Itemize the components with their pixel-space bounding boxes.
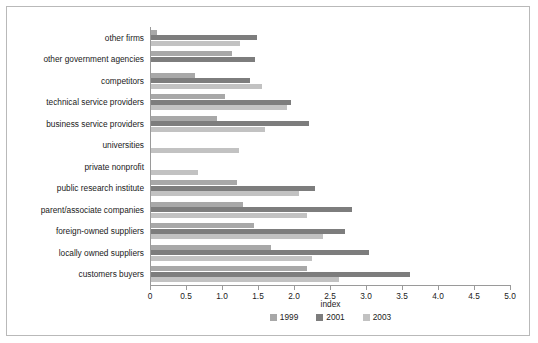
bar-group <box>150 178 510 200</box>
legend-swatch-icon <box>316 314 323 321</box>
bar-2003 <box>150 41 240 46</box>
x-tick-mark <box>402 286 403 290</box>
category-label: business service providers <box>46 119 144 129</box>
plot-area <box>150 27 510 285</box>
bar-group <box>150 156 510 178</box>
legend-swatch-icon <box>363 314 370 321</box>
x-tick-mark <box>258 286 259 290</box>
legend-label: 2001 <box>326 312 344 322</box>
bar-1999 <box>150 73 195 78</box>
x-tick-mark <box>222 286 223 290</box>
category-label: other government agencies <box>43 54 144 64</box>
category-label: private nonprofit <box>85 162 145 172</box>
category-label: universities <box>102 140 144 150</box>
bar-1999 <box>150 51 232 56</box>
bar-group <box>150 92 510 114</box>
bar-2001 <box>150 35 257 40</box>
bar-2003 <box>150 277 339 282</box>
bar-1999 <box>150 94 225 99</box>
bar-2001 <box>150 57 255 62</box>
bar-2001 <box>150 78 250 83</box>
bar-group <box>150 264 510 286</box>
bar-1999 <box>150 30 157 35</box>
bar-2003 <box>150 213 307 218</box>
legend-item[interactable]: 1999 <box>270 312 298 322</box>
x-tick-mark <box>474 286 475 290</box>
legend-label: 1999 <box>280 312 298 322</box>
bar-2001 <box>150 250 369 255</box>
chart-frame: other firmsother government agenciescomp… <box>6 6 530 336</box>
bar-2001 <box>150 272 410 277</box>
bar-1999 <box>150 116 217 121</box>
x-tick-mark <box>294 286 295 290</box>
bar-2003 <box>150 170 198 175</box>
bar-2001 <box>150 229 345 234</box>
bar-2003 <box>150 256 312 261</box>
x-tick-mark <box>510 286 511 290</box>
bar-group <box>150 199 510 221</box>
bar-group <box>150 242 510 264</box>
y-axis-line <box>150 27 151 285</box>
bar-group <box>150 70 510 92</box>
category-label: parent/associate companies <box>41 205 144 215</box>
bar-2003 <box>150 234 323 239</box>
bar-2003 <box>150 84 262 89</box>
bar-group <box>150 27 510 49</box>
category-label: other firms <box>105 33 144 43</box>
legend-item[interactable]: 2001 <box>316 312 344 322</box>
bar-2001 <box>150 207 352 212</box>
bar-group <box>150 135 510 157</box>
bar-2003 <box>150 127 265 132</box>
bar-group <box>150 113 510 135</box>
bar-1999 <box>150 202 243 207</box>
x-tick-mark <box>186 286 187 290</box>
category-label: technical service providers <box>46 97 144 107</box>
bar-2001 <box>150 100 291 105</box>
legend-item[interactable]: 2003 <box>363 312 391 322</box>
bar-1999 <box>150 245 271 250</box>
bar-2001 <box>150 186 315 191</box>
bar-1999 <box>150 223 254 228</box>
legend-swatch-icon <box>270 314 277 321</box>
bar-1999 <box>150 266 307 271</box>
bar-2001 <box>150 121 309 126</box>
bar-2003 <box>150 191 299 196</box>
category-label: competitors <box>101 76 144 86</box>
bar-2003 <box>150 105 287 110</box>
bar-2003 <box>150 148 239 153</box>
x-tick-mark <box>150 286 151 290</box>
category-label: public research institute <box>57 183 144 193</box>
chart-legend: 199920012003 <box>150 312 511 322</box>
category-label: locally owned suppliers <box>59 248 144 258</box>
category-label: customers buyers <box>79 269 144 279</box>
x-tick-mark <box>330 286 331 290</box>
legend-label: 2003 <box>373 312 391 322</box>
bar-group <box>150 221 510 243</box>
x-tick-mark <box>438 286 439 290</box>
bar-group <box>150 49 510 71</box>
category-label: foreign-owned suppliers <box>56 226 144 236</box>
x-axis-title: index <box>150 299 511 309</box>
category-axis-labels: other firmsother government agenciescomp… <box>7 27 144 285</box>
x-tick-mark <box>366 286 367 290</box>
bar-1999 <box>150 180 237 185</box>
